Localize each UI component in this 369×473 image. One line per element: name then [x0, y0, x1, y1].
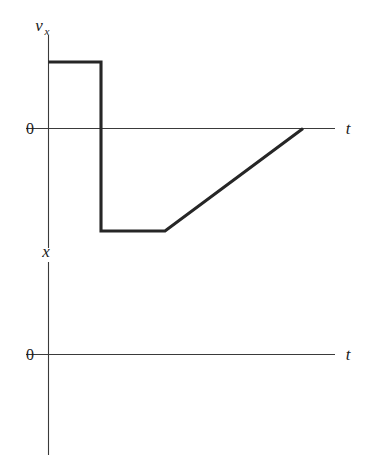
- velocity-origin-label: 0: [26, 120, 34, 137]
- position-origin-label: 0: [26, 346, 34, 363]
- figure-background: [0, 0, 369, 473]
- velocity-axis-label-subscript: x: [44, 25, 50, 37]
- physics-kinematics-figure: v x t 0 x t 0: [0, 0, 369, 473]
- velocity-axis-label: v: [35, 16, 43, 35]
- position-axis-label: x: [41, 242, 50, 261]
